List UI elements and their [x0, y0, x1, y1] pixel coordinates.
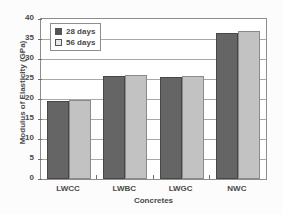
- bar: [160, 77, 182, 179]
- x-axis-tick-label: LWGC: [151, 184, 211, 193]
- legend-swatch-28-days-icon: [55, 28, 62, 35]
- y-axis-tick-label: 0: [8, 173, 34, 182]
- bar: [69, 100, 91, 179]
- y-axis-tick-label: 15: [8, 113, 34, 122]
- y-axis-tick-label: 40: [8, 13, 34, 22]
- bar-group: [97, 19, 153, 179]
- bar: [47, 101, 69, 179]
- bar: [182, 76, 204, 179]
- y-axis-tick-mark: [38, 179, 42, 180]
- x-axis-tick-label: LWBC: [94, 184, 154, 193]
- bar: [238, 31, 260, 179]
- x-axis-tick-label: LWCC: [38, 184, 98, 193]
- legend-label: 28 days: [66, 27, 95, 36]
- y-axis-tick-label: 20: [8, 93, 34, 102]
- legend-item: 28 days: [55, 26, 95, 37]
- bar-chart: Modulus of Elasticity (GPa) 403530252015…: [0, 0, 282, 214]
- legend-label: 56 days: [66, 38, 95, 47]
- y-axis-tick-label: 30: [8, 53, 34, 62]
- bar: [103, 76, 125, 179]
- bar: [216, 33, 238, 179]
- chart-legend: 28 days 56 days: [50, 23, 101, 51]
- y-axis-tick-label: 35: [8, 33, 34, 42]
- y-axis-tick-label: 25: [8, 73, 34, 82]
- bar: [125, 75, 147, 179]
- x-axis-title: Concretes: [40, 196, 267, 205]
- x-axis-tick-label: NWC: [207, 184, 267, 193]
- bar-group: [154, 19, 210, 179]
- bar-group: [210, 19, 266, 179]
- y-axis-tick-label: 10: [8, 133, 34, 142]
- y-axis-tick-label: 5: [8, 153, 34, 162]
- legend-swatch-56-days-icon: [55, 39, 62, 46]
- legend-item: 56 days: [55, 37, 95, 48]
